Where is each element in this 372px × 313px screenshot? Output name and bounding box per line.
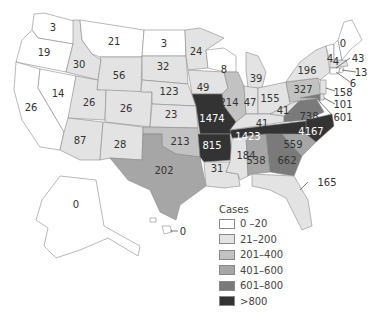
label-AL: 538: [246, 155, 265, 166]
label-NE: 123: [159, 86, 178, 97]
label-WA: 3: [50, 22, 56, 33]
map-legend: Cases 0 –20 21–200 201–400 401–600 601–8…: [219, 204, 283, 309]
label-NY: 196: [297, 65, 316, 76]
label-AZ: 87: [74, 135, 87, 146]
label-WV: 41: [277, 105, 290, 116]
label-NV: 14: [52, 88, 65, 99]
label-CA: 26: [25, 102, 38, 113]
legend-label: >800: [240, 296, 267, 307]
label-UT: 26: [83, 97, 96, 108]
label-MN: 24: [190, 46, 203, 57]
label-SD: 32: [157, 61, 170, 72]
label-CO: 26: [120, 103, 133, 114]
legend-item: 601–800: [219, 278, 283, 294]
label-MD: 601: [333, 112, 352, 123]
label-ID: 30: [73, 59, 86, 70]
label-OR: 19: [38, 47, 51, 58]
legend-label: 21–200: [240, 234, 277, 245]
label-RI: 13: [355, 67, 368, 78]
state-HI: [162, 226, 172, 234]
label-VA: 738: [299, 111, 318, 122]
legend-swatch: [219, 281, 235, 291]
legend-label: 601–800: [240, 280, 283, 291]
label-NH: 4: [333, 56, 339, 67]
label-HI: 0: [180, 226, 186, 237]
label-WI: 8: [221, 64, 227, 75]
label-MT: 21: [108, 36, 121, 47]
label-AR: 815: [202, 140, 221, 151]
label-IL: 214: [219, 97, 238, 108]
label-TX: 202: [154, 165, 173, 176]
legend-item: 201–400: [219, 247, 283, 263]
label-OK: 213: [170, 136, 189, 147]
state-NJ: [320, 80, 326, 94]
state-DE: [320, 94, 324, 100]
label-ND: 3: [161, 38, 167, 49]
state-CT: [330, 68, 340, 74]
label-PA: 327: [293, 84, 312, 95]
state-AK: [36, 176, 140, 258]
legend-swatch: [219, 265, 235, 275]
legend-item: 21–200: [219, 232, 283, 248]
legend-swatch: [219, 296, 235, 306]
label-KY: 41: [256, 118, 269, 129]
label-OH: 155: [260, 93, 279, 104]
label-DE: 101: [333, 99, 352, 110]
label-GA: 662: [277, 155, 296, 166]
label-FL: 165: [317, 177, 336, 188]
legend-item: >800: [219, 294, 283, 310]
label-NC: 4167: [298, 126, 323, 137]
label-IN: 47: [244, 97, 257, 108]
legend-swatch: [219, 219, 235, 229]
label-MI: 39: [250, 73, 263, 84]
legend-swatch: [219, 250, 235, 260]
legend-label: 201–400: [240, 249, 283, 260]
label-WY: 56: [113, 70, 126, 81]
label-SC: 559: [283, 139, 302, 150]
legend-title: Cases: [219, 204, 283, 215]
legend-item: 401–600: [219, 263, 283, 279]
label-ME: 0: [340, 38, 346, 49]
label-IA: 49: [197, 82, 210, 93]
legend-label: 401–600: [240, 265, 283, 276]
label-LA: 31: [211, 163, 224, 174]
label-KS: 23: [165, 109, 178, 120]
label-NJ: 158: [333, 87, 352, 98]
label-AK: 0: [73, 199, 79, 210]
legend-item: 0 –20: [219, 216, 283, 232]
us-choropleth-map: 3 19 26 14 30 21 56 26 26 87 28 3 32 123…: [0, 0, 372, 313]
legend-label: 0 –20: [240, 218, 267, 229]
label-NM: 28: [114, 139, 127, 150]
state-HI-2: [150, 218, 156, 222]
label-TN: 1423: [235, 131, 260, 142]
label-MA: 43: [352, 53, 365, 64]
legend-swatch: [219, 234, 235, 244]
label-MO: 1474: [199, 113, 224, 124]
